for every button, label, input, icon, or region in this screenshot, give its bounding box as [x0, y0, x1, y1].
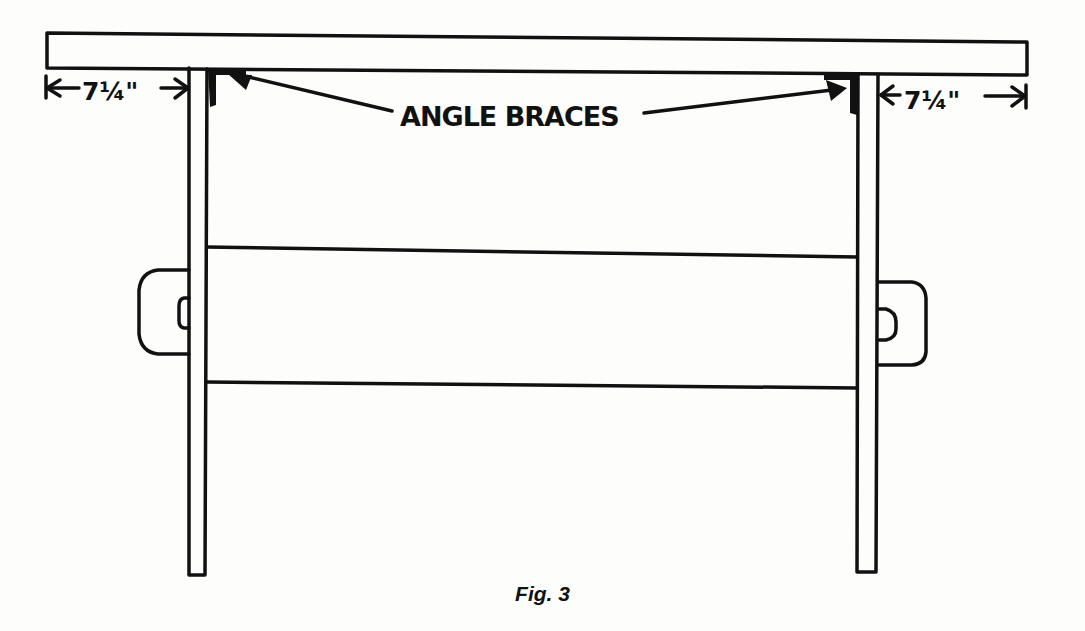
left-dimension-label: 7¼" [82, 77, 138, 106]
diagram-canvas: ANGLE BRACES 7¼" 7¼" [0, 0, 1085, 631]
right-leader-line [644, 90, 832, 113]
right-cleat-slot [879, 309, 896, 340]
stretcher-bottom-edge [207, 382, 857, 388]
left-leader-arrowhead-icon [228, 74, 252, 90]
figure-caption: Fig. 3 [0, 582, 1085, 606]
right-cleat [879, 282, 926, 365]
right-leader-arrowhead-icon [826, 80, 847, 101]
left-leader-line [240, 75, 392, 111]
right-angle-brace [824, 73, 857, 115]
tabletop [47, 33, 1027, 75]
stretcher-top-edge [207, 247, 857, 257]
left-cleat [139, 270, 189, 354]
right-dimension-label: 7¼" [904, 86, 960, 115]
left-leg [189, 68, 207, 575]
left-angle-brace [208, 68, 246, 107]
right-leg [857, 75, 878, 572]
angle-braces-label: ANGLE BRACES [400, 101, 619, 132]
